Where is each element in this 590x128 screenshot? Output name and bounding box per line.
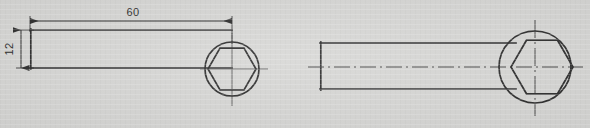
length-dimension-label: 60 <box>126 6 139 18</box>
right-view <box>308 20 583 116</box>
drawing-sheet: 60 12 <box>0 0 590 128</box>
left-view-centerlines <box>200 33 268 106</box>
technical-drawing-canvas: 60 12 <box>0 0 590 128</box>
left-view: 60 12 <box>3 6 268 106</box>
right-view-bar <box>320 42 516 90</box>
left-view-bar <box>30 29 232 69</box>
left-view-extension-lines <box>16 16 232 68</box>
height-dimension-label: 12 <box>3 42 15 55</box>
